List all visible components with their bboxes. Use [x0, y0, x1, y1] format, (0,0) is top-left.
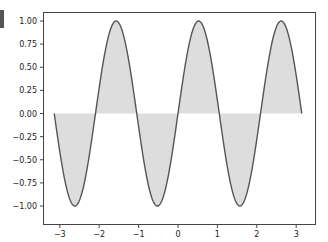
y-tick-label: 0.00: [19, 110, 37, 119]
x-tick-label: 1: [215, 230, 220, 239]
y-tick-label: 1.00: [19, 17, 37, 26]
y-tick-label: −1.00: [12, 202, 37, 211]
x-tick-label: −3: [54, 230, 66, 239]
y-tick-label: 0.25: [19, 86, 37, 95]
sine-area-chart: −3−2−10123 1.000.750.500.250.00−0.25−0.5…: [0, 0, 328, 242]
y-tick-label: −0.50: [12, 156, 37, 165]
x-axis: −3−2−10123: [54, 225, 299, 240]
y-tick-label: −0.25: [12, 133, 37, 142]
x-tick-label: 2: [254, 230, 259, 239]
x-tick-label: −1: [133, 230, 145, 239]
y-tick-label: 0.75: [19, 40, 37, 49]
x-tick-label: 0: [175, 230, 180, 239]
y-axis: 1.000.750.500.250.00−0.25−0.50−0.75−1.00: [12, 17, 43, 211]
y-tick-label: −0.75: [12, 179, 37, 188]
plot-area: [54, 21, 302, 206]
y-tick-label: 0.50: [19, 63, 37, 72]
x-tick-label: −2: [93, 230, 105, 239]
x-tick-label: 3: [294, 230, 299, 239]
